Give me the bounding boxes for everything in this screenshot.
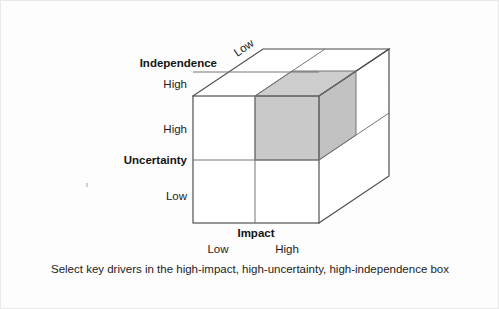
cube-diagram: Independence Low High High Uncertainty L… bbox=[1, 1, 499, 309]
axis-label-independence: Independence bbox=[140, 57, 217, 69]
axis-label-impact: Impact bbox=[237, 227, 274, 239]
uncertainty-tick-low: Low bbox=[166, 190, 188, 202]
scan-artifact-speck bbox=[86, 183, 88, 187]
axis-label-uncertainty: Uncertainty bbox=[124, 154, 188, 166]
highlight-box-front bbox=[255, 96, 319, 160]
figure-caption: Select key drivers in the high-impact, h… bbox=[51, 263, 449, 275]
impact-tick-low: Low bbox=[207, 243, 229, 255]
uncertainty-tick-high: High bbox=[163, 123, 187, 135]
impact-tick-high: High bbox=[275, 243, 299, 255]
independence-tick-high: High bbox=[163, 78, 187, 90]
figure-container: Independence Low High High Uncertainty L… bbox=[0, 0, 499, 309]
